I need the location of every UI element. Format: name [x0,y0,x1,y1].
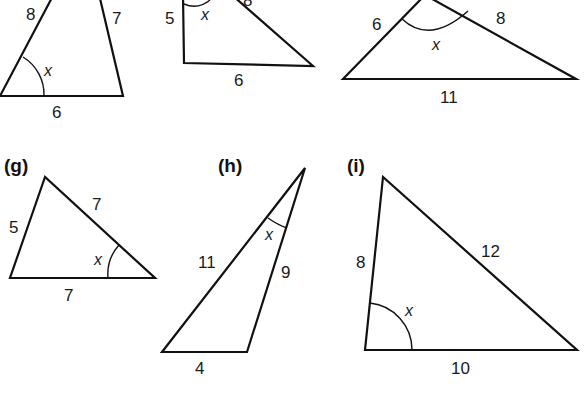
side-label: 7 [92,195,101,214]
side-label: 7 [64,286,73,305]
angle-label: x [264,226,274,243]
side-label: 4 [195,359,204,378]
angle-arc-icon [108,245,119,278]
side-label: 8 [243,0,252,10]
triangle-i: (i) 8 12 10 x [347,155,577,378]
triangle-d-edges [0,0,123,96]
triangle-f: 6 8 11 x [343,0,576,107]
side-label: 11 [440,88,458,107]
triangle-f-edges [343,0,576,79]
side-label: 10 [451,359,470,378]
angle-arc-icon [23,57,44,96]
triangle-h-edges [162,168,305,352]
side-label: 11 [198,253,216,272]
triangles-figure: 8 7 6 x 5 6 8 x 6 8 11 x (g) 5 7 7 x (h)… [0,0,586,407]
side-label: 9 [281,263,290,282]
angle-label: x [404,302,414,319]
side-label: 8 [26,5,35,24]
side-label: 5 [165,9,174,28]
triangle-i-edges [365,177,577,350]
triangle-e: 5 6 8 x [165,0,313,90]
side-label: 8 [496,9,505,28]
side-label: 6 [234,71,243,90]
angle-label: x [93,251,103,268]
angle-label: x [43,62,53,79]
side-label: 5 [9,218,18,237]
triangle-g-edges [10,177,155,278]
triangle-d: 8 7 6 x [0,0,123,122]
side-label: 6 [52,103,61,122]
side-label: 12 [481,242,500,261]
problem-tag: (h) [218,155,242,176]
triangle-g: (g) 5 7 7 x [4,155,155,305]
problem-tag: (g) [4,155,28,176]
problem-tag: (i) [347,155,365,176]
triangle-h: (h) 11 9 4 x [162,155,305,378]
side-label: 8 [356,253,365,272]
side-label: 6 [372,15,381,34]
angle-label: x [431,36,441,53]
angle-label: x [200,6,210,23]
side-label: 7 [112,9,121,28]
